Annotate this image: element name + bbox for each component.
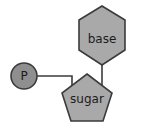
sugar-label: sugar (70, 92, 104, 106)
nucleotide-diagram: base sugar P (0, 0, 147, 132)
base-label: base (88, 32, 117, 46)
phosphate-label: P (20, 69, 27, 83)
nucleotide-diagram-canvas: base sugar P (0, 0, 147, 132)
